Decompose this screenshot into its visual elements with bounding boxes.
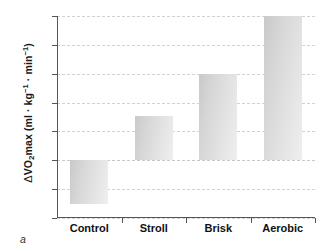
vo-subscript: 2 [27, 155, 36, 160]
panel-caption: a [20, 233, 26, 245]
figure-panel: ΔVO2max (ml · kg−1 · min−1) 543210–1–2 C… [0, 0, 333, 250]
bar-brisk [199, 74, 237, 161]
delta-symbol: Δ [22, 175, 34, 182]
y-axis-line [57, 16, 58, 218]
x-tick-mark [315, 218, 316, 223]
vo-text: VO [22, 160, 34, 175]
units-text-2: · min [22, 56, 34, 85]
y-tick-mark [52, 218, 57, 219]
bar-control [70, 160, 108, 203]
plot-area: 543210–1–2 [57, 16, 315, 218]
bar-aerobic [264, 16, 302, 160]
y-axis-title: ΔVO2max (ml · kg−1 · min−1) [20, 13, 36, 213]
x-category-label-brisk: Brisk [186, 222, 251, 235]
x-category-label-control: Control [57, 222, 122, 235]
units-exponent-1: −1 [21, 84, 30, 93]
units-exponent-2: −1 [21, 47, 30, 56]
x-category-label-stroll: Stroll [122, 222, 187, 235]
x-axis-line [57, 217, 315, 218]
bar-stroll [135, 116, 173, 161]
units-text-1: max (ml · kg [22, 93, 34, 155]
x-category-label-aerobic: Aerobic [251, 222, 316, 235]
